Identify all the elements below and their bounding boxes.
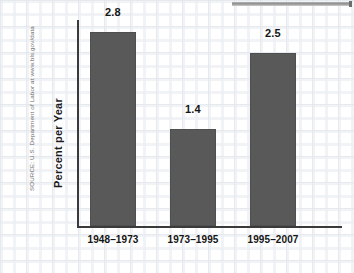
chart-figure: SOURCE: U.S. Department of Labor at www.… [0, 0, 354, 273]
x-tick-label-2: 1995–2007 [230, 234, 316, 245]
scan-artifact-cap [349, 1, 352, 7]
y-axis-title: Percent per Year [52, 81, 64, 205]
bar-1 [170, 129, 216, 226]
bar-value-0: 2.8 [90, 6, 136, 18]
x-tick-label-1: 1973–1995 [150, 234, 236, 245]
bar-value-2: 2.5 [250, 27, 296, 39]
source-note: SOURCE: U.S. Department of Labor at www.… [28, 16, 35, 191]
x-tick-label-0: 1948–1973 [70, 234, 156, 245]
plot-area: 2.8 1.4 2.5 [77, 18, 342, 230]
x-axis-line [77, 226, 342, 228]
bar-series: 2.8 1.4 2.5 [77, 18, 342, 226]
scan-artifact-strip [232, 2, 352, 6]
x-axis-tick-labels: 1948–1973 1973–1995 1995–2007 [77, 234, 342, 252]
bar-2 [250, 53, 296, 226]
bar-0 [90, 32, 136, 226]
bar-value-1: 1.4 [170, 103, 216, 115]
